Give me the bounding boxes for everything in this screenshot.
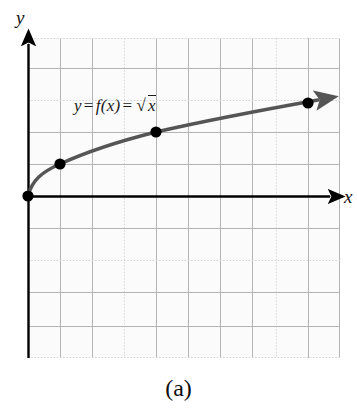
equation-sqrt-symbol: √ bbox=[134, 96, 148, 115]
equation-y: y bbox=[74, 96, 82, 115]
plot-svg bbox=[0, 0, 357, 415]
y-axis-label: y bbox=[16, 8, 24, 27]
equation-fx: f(x) bbox=[96, 96, 121, 115]
point-origin bbox=[22, 190, 33, 201]
x-axis-label: x bbox=[344, 187, 352, 206]
figure-caption: (a) bbox=[0, 375, 357, 402]
point-4 bbox=[150, 126, 161, 137]
point-8-75 bbox=[302, 97, 313, 108]
equation-equals-2: = bbox=[121, 96, 135, 115]
curve-equation-label: y=f(x)=√x bbox=[74, 96, 156, 116]
point-1 bbox=[54, 158, 65, 169]
equation-radicand: x bbox=[148, 95, 156, 115]
equation-equals-1: = bbox=[82, 96, 96, 115]
figure-panel: y x y=f(x)=√x (a) bbox=[0, 0, 357, 415]
grid-panel-background bbox=[28, 38, 340, 358]
